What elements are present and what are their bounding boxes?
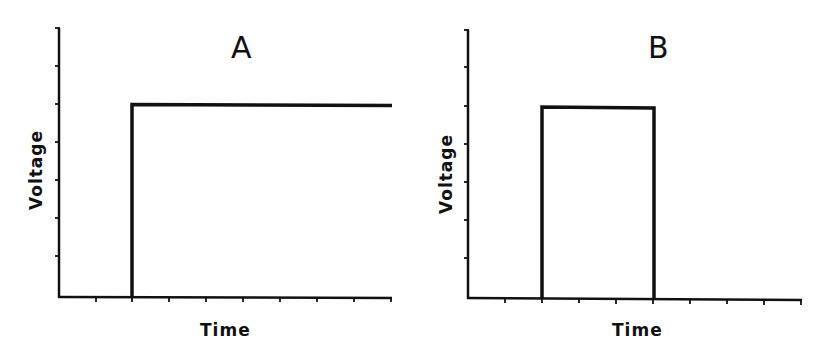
chart-panel-b: B Voltage Time [412, 0, 825, 357]
y-axis-label-a: Voltage [26, 130, 46, 210]
pulse-waveform [542, 107, 654, 299]
y-axis-label-b: Voltage [436, 134, 456, 214]
x-axis-label-a: Time [200, 320, 251, 340]
x-axis-label-b: Time [612, 320, 663, 340]
x-axis [467, 298, 802, 300]
chart-panel-a: A Voltage Time [0, 0, 412, 357]
step-waveform [132, 105, 392, 298]
plot-area-a [0, 0, 412, 357]
x-axis [58, 297, 392, 298]
chart-title-a: A [231, 33, 252, 63]
chart-title-b: B [648, 33, 669, 63]
plot-area-b [412, 0, 825, 357]
